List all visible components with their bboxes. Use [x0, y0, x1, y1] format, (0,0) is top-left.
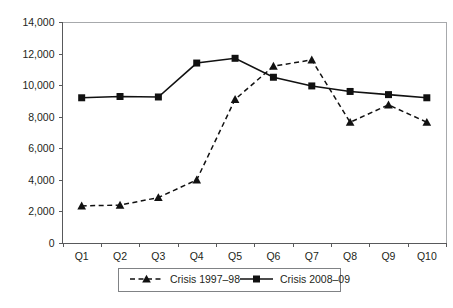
- data-point-triangle-Q8: [346, 118, 355, 126]
- y-tick-label: 10,000: [22, 79, 54, 91]
- y-tick-label: 14,000: [22, 16, 54, 28]
- data-point-square-Q1: [78, 94, 85, 101]
- x-tick-label: Q4: [190, 250, 204, 262]
- data-point-triangle-Q3: [154, 193, 163, 201]
- series-line-1: [82, 60, 427, 206]
- data-point-triangle-Q10: [422, 118, 431, 126]
- chart-container: 02,0004,0006,0008,00010,00012,00014,000 …: [0, 0, 453, 308]
- data-point-square-Q6: [270, 74, 277, 81]
- data-point-square-Q9: [385, 91, 392, 98]
- legend-label-2: Crisis 2008–09: [280, 273, 350, 285]
- data-point-square-Q4: [193, 60, 200, 67]
- y-tick-label: 2,000: [28, 205, 54, 217]
- x-axis: Q1Q2Q3Q4Q5Q6Q7Q8Q9Q10: [63, 243, 447, 262]
- x-tick-label: Q1: [75, 250, 89, 262]
- data-point-square-Q8: [347, 88, 354, 95]
- x-tick-label: Q8: [343, 250, 357, 262]
- y-tick-label: 12,000: [22, 48, 54, 60]
- data-point-triangle-Q9: [384, 101, 393, 109]
- x-tick-label: Q3: [151, 250, 165, 262]
- data-point-square-Q5: [232, 55, 239, 62]
- y-tick-label: 6,000: [28, 142, 54, 154]
- plot-area-frame: [63, 23, 447, 244]
- legend-marker-square: [253, 276, 260, 283]
- data-point-triangle-Q4: [192, 176, 201, 184]
- data-point-square-Q10: [423, 94, 430, 101]
- x-tick-label: Q5: [228, 250, 242, 262]
- data-point-triangle-Q6: [269, 62, 278, 70]
- legend-label-1: Crisis 1997–98: [170, 273, 240, 285]
- data-point-triangle-Q7: [307, 56, 316, 64]
- legend: Crisis 1997–98Crisis 2008–09: [119, 268, 351, 291]
- data-point-square-Q7: [308, 82, 315, 89]
- y-tick-label: 0: [49, 237, 55, 249]
- x-tick-label: Q10: [417, 250, 437, 262]
- x-tick-label: Q6: [266, 250, 280, 262]
- data-point-square-Q2: [117, 93, 124, 100]
- y-axis: 02,0004,0006,0008,00010,00012,00014,000: [22, 16, 62, 249]
- series-line-2: [82, 58, 427, 97]
- series-layer: [77, 55, 431, 210]
- y-tick-label: 4,000: [28, 174, 54, 186]
- line-chart: 02,0004,0006,0008,00010,00012,00014,000 …: [0, 0, 453, 308]
- x-tick-label: Q9: [381, 250, 395, 262]
- x-tick-label: Q7: [305, 250, 319, 262]
- y-tick-label: 8,000: [28, 111, 54, 123]
- x-tick-label: Q2: [113, 250, 127, 262]
- data-point-square-Q3: [155, 93, 162, 100]
